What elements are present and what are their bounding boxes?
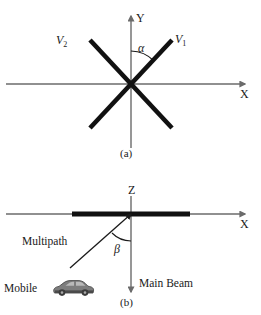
vector-label-v2-subscript: 2: [63, 40, 67, 49]
figure-root: V2 V1 α Y X (a) Z X Multipath β Main Bea…: [0, 0, 261, 315]
beta-arc: [112, 233, 131, 241]
y-axis-label: Y: [136, 12, 145, 24]
vector-label-v1-subscript: 1: [182, 39, 186, 48]
car-icon: [54, 281, 94, 296]
alpha-angle-label: α: [138, 42, 144, 54]
vector-label-v1: V1: [175, 33, 186, 48]
multipath-ray: [70, 214, 131, 268]
panel-a-group: [6, 16, 245, 148]
main-beam-label: Main Beam: [139, 278, 193, 290]
beta-angle-label: β: [114, 243, 120, 255]
x-axis-label-b: X: [240, 218, 249, 230]
panel-b-caption: (b): [120, 297, 133, 308]
x-axis-label-a: X: [240, 88, 249, 100]
panel-a-caption: (a): [120, 148, 132, 159]
multipath-label: Multipath: [22, 236, 67, 248]
z-axis-label: Z: [128, 184, 135, 196]
vector-label-v2: V2: [56, 34, 67, 49]
mobile-label: Mobile: [4, 283, 37, 295]
